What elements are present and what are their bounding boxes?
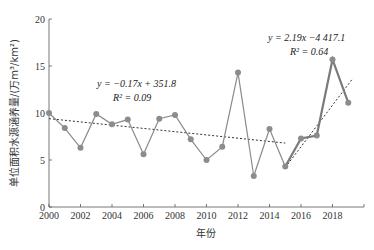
x-tick-label: 2012 bbox=[228, 210, 248, 221]
data-point bbox=[282, 164, 288, 170]
trendlines bbox=[49, 78, 353, 167]
data-point bbox=[330, 56, 336, 62]
data-point bbox=[62, 125, 68, 131]
data-point bbox=[141, 151, 147, 157]
data-point bbox=[46, 110, 52, 116]
data-point bbox=[345, 100, 351, 106]
x-axis-title: 年份 bbox=[196, 227, 216, 239]
data-point bbox=[314, 133, 320, 139]
x-tick-label: 2016 bbox=[291, 210, 311, 221]
y-tick-label: 15 bbox=[35, 61, 45, 72]
x-tick-label: 2010 bbox=[197, 210, 217, 221]
x-tick-label: 2014 bbox=[260, 210, 280, 221]
data-series bbox=[49, 59, 348, 176]
data-point bbox=[298, 135, 304, 141]
series-line-highlight bbox=[285, 59, 348, 166]
y-axis-title: 单位面积水源涵养量/(万m³/km²) bbox=[8, 39, 20, 187]
data-point bbox=[172, 112, 178, 118]
x-tick-label: 2000 bbox=[39, 210, 59, 221]
data-point bbox=[235, 70, 241, 76]
data-point bbox=[109, 121, 115, 127]
data-point bbox=[219, 144, 225, 150]
trend-r2-2: R² = 0.64 bbox=[289, 46, 328, 57]
x-tick-label: 2018 bbox=[323, 210, 343, 221]
x-tick-label: 2008 bbox=[165, 210, 185, 221]
y-tick-label: 20 bbox=[35, 14, 45, 25]
axes: 0510152020002002200420062008201020122014… bbox=[35, 14, 364, 222]
data-point bbox=[188, 136, 194, 142]
data-point bbox=[78, 145, 84, 151]
data-points bbox=[46, 56, 351, 179]
data-point bbox=[267, 126, 273, 132]
y-tick-label: 5 bbox=[40, 155, 45, 166]
x-tick-label: 2006 bbox=[134, 210, 154, 221]
chart-canvas: 0510152020002002200420062008201020122014… bbox=[0, 0, 374, 250]
data-point bbox=[156, 116, 162, 122]
y-tick-label: 10 bbox=[35, 108, 45, 119]
trend-r2-1: R² = 0.09 bbox=[112, 92, 151, 103]
data-point bbox=[125, 117, 131, 123]
x-tick-label: 2004 bbox=[102, 210, 122, 221]
trend-equation-1: y = −0.17x + 351.8 bbox=[96, 78, 176, 89]
x-tick-label: 2002 bbox=[71, 210, 91, 221]
data-point bbox=[204, 157, 210, 163]
data-point bbox=[251, 173, 257, 179]
data-point bbox=[93, 111, 99, 117]
trend-equation-2: y = 2.19x −4 417.1 bbox=[267, 32, 345, 43]
